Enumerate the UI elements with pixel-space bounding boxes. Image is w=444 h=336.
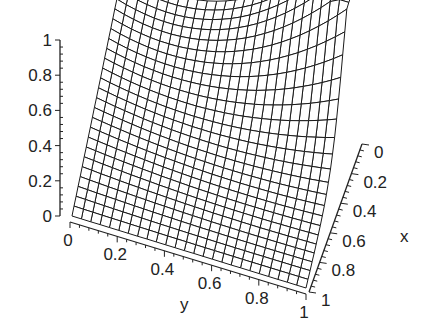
z-tick-label: 0.2 [28, 172, 52, 191]
y-tick-label: 0 [63, 231, 72, 250]
y-axis-label: y [180, 295, 189, 314]
z-tick-label: 0.6 [28, 101, 52, 120]
z-tick-label: 0 [43, 207, 52, 226]
y-tick-label: 0.8 [245, 289, 269, 308]
x-tick-label: 0.8 [332, 261, 356, 280]
x-tick-label: 1 [321, 291, 330, 310]
x-tick-label: 0.4 [353, 202, 377, 221]
z-tick-label: 0.8 [28, 66, 52, 85]
surface-plot: 00.20.40.60.8100.20.40.60.8100.20.40.60.… [0, 0, 444, 336]
y-tick-label: 0.4 [151, 260, 175, 279]
y-tick-label: 0.2 [103, 245, 127, 264]
z-tick-label: 1 [43, 31, 52, 50]
z-tick-label: 0.4 [28, 137, 52, 156]
x-tick-label: 0.2 [363, 173, 387, 192]
y-tick-label: 0.6 [198, 274, 222, 293]
x-axis-label: x [400, 227, 409, 246]
x-tick-label: 0.6 [342, 232, 366, 251]
x-tick-label: 0 [374, 143, 383, 162]
y-tick-label: 1 [299, 303, 308, 322]
